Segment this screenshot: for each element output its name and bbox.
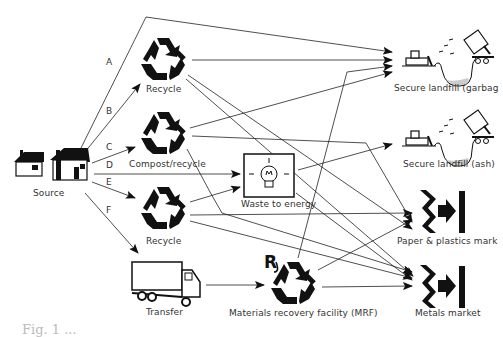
recycle-bottom-label: Recycle bbox=[146, 236, 181, 246]
source-label: Source bbox=[33, 188, 65, 198]
waste-to-energy-label: Waste to energy bbox=[241, 199, 316, 209]
compost-recycle-icon bbox=[141, 112, 185, 154]
route-b-line bbox=[85, 84, 140, 152]
route-e-line bbox=[92, 182, 135, 198]
recycle-top-label: Recycle bbox=[146, 84, 181, 94]
flow-lines bbox=[80, 17, 413, 287]
waste-to-energy-box bbox=[244, 154, 294, 197]
route-label-d: D bbox=[106, 160, 113, 170]
route-label-b: B bbox=[106, 106, 112, 116]
mrf-r-badge: R bbox=[264, 252, 277, 272]
route-label-e: E bbox=[106, 177, 112, 187]
route-label-a: A bbox=[106, 57, 112, 67]
compost-label: Compost/recycle bbox=[129, 159, 206, 169]
metals-market-icon bbox=[420, 265, 465, 308]
transfer-label: Transfer bbox=[146, 307, 183, 317]
route-a-line bbox=[80, 17, 392, 150]
mrf-label: Materials recovery facility (MRF) bbox=[229, 308, 378, 318]
recycle-bottom-icon bbox=[141, 187, 185, 229]
recycle-top-icon bbox=[141, 38, 185, 80]
route-f-line bbox=[85, 193, 138, 253]
transfer-truck-icon bbox=[132, 262, 200, 306]
paper-market-label: Paper & plastics mark bbox=[397, 236, 497, 246]
metals-market-label: Metals market bbox=[415, 308, 481, 318]
route-label-c: C bbox=[106, 142, 112, 152]
landfill-ash-label: Secure landfill (ash) bbox=[403, 159, 495, 169]
paper-market-icon bbox=[420, 190, 465, 233]
figure-caption-fragment: Fig. 1 ... bbox=[22, 322, 77, 337]
source-houses-icon bbox=[14, 148, 90, 180]
landfill-garbage-icon bbox=[402, 30, 494, 86]
landfill-ash-icon bbox=[402, 110, 494, 166]
route-label-f: F bbox=[106, 205, 111, 215]
landfill-garbage-label: Secure landfill (garbag bbox=[394, 83, 498, 93]
